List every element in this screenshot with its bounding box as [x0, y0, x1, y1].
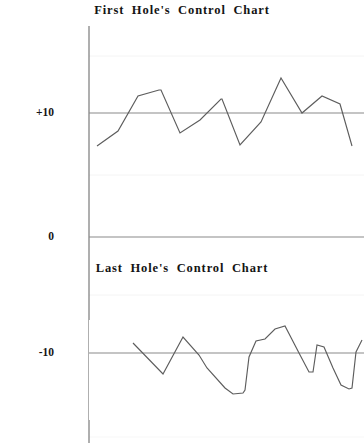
control-chart-figure: First Hole's Control Chart Last Hole's C…	[0, 0, 364, 443]
plot-canvas-overlay	[0, 0, 364, 443]
overlay-mask	[89, 320, 364, 420]
